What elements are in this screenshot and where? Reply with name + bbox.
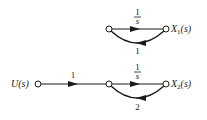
node-b1: [106, 81, 112, 87]
gain-den: s: [136, 16, 140, 26]
node-u: [35, 81, 41, 87]
signal-flow-graph: 1 s 1 X1(s) 1 1 s 2 U(s) X2(s): [0, 0, 207, 120]
node-x2: [163, 81, 169, 87]
bottom-subgraph: 1 1 s 2 U(s) X2(s): [11, 62, 192, 112]
arrow-forward-icon: [130, 26, 140, 32]
gain-den: s: [136, 71, 140, 81]
node-label-x2: X2(s): [170, 78, 192, 91]
top-subgraph: 1 s 1 X1(s): [106, 7, 192, 56]
node-a1: [106, 26, 112, 32]
node-label-u: U(s): [11, 78, 29, 90]
node-label-x1: X1(s): [170, 23, 192, 36]
feedback-branch-x2-b1: [111, 86, 164, 98]
arrow-forward-icon: [68, 81, 78, 87]
feedback-branch-x1-a1: [111, 31, 164, 43]
arrow-forward-icon: [130, 81, 140, 87]
feedback-gain: 1: [135, 46, 140, 56]
node-x1: [163, 26, 169, 32]
arrow-back-icon: [136, 95, 146, 101]
gain-u-b1: 1: [71, 70, 76, 80]
feedback-gain: 2: [135, 102, 140, 112]
